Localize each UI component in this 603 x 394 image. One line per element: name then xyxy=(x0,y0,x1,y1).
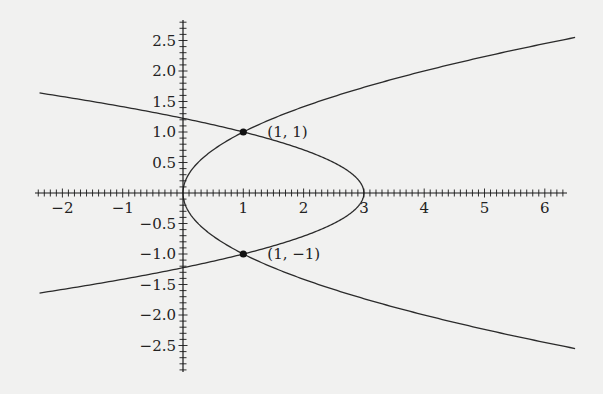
y-tick-label: 1.5 xyxy=(152,93,176,111)
x-tick-label: 3 xyxy=(359,199,369,217)
point-label: (1, −1) xyxy=(267,245,320,263)
y-tick-label: −2.0 xyxy=(140,306,176,324)
y-tick-label: −2.5 xyxy=(140,337,176,355)
x-tick-label: −2 xyxy=(51,199,73,217)
x-tick-label: 2 xyxy=(299,199,309,217)
intersection-marker xyxy=(240,250,247,257)
x-tick-label: 1 xyxy=(239,199,249,217)
y-tick-label: 1.0 xyxy=(152,123,176,141)
intersection-marker xyxy=(240,128,247,135)
x-tick-label: −1 xyxy=(112,199,134,217)
axes xyxy=(35,20,567,372)
y-tick-label: −1.0 xyxy=(140,245,176,263)
chart-canvas: −2−1123456 2.52.01.51.00.5−0.5−1.0−1.5−2… xyxy=(0,0,603,394)
point-label: (1, 1) xyxy=(267,123,307,141)
x-tick-label: 4 xyxy=(419,199,429,217)
y-tick-label: −1.5 xyxy=(140,276,176,294)
y-tick-label: 0.5 xyxy=(152,154,176,172)
y-tick-label: 2.5 xyxy=(152,32,176,50)
y-tick-label: −0.5 xyxy=(140,215,176,233)
x-tick-label: 6 xyxy=(540,199,550,217)
x-tick-labels: −2−1123456 xyxy=(51,199,549,217)
x-tick-label: 5 xyxy=(480,199,490,217)
y-tick-label: 2.0 xyxy=(152,62,176,80)
